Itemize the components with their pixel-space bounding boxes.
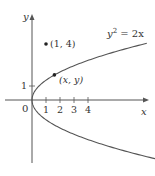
x-tick-label-1: 1 xyxy=(43,104,49,115)
equation-label: y2 = 2x xyxy=(106,27,144,39)
parabola-diagram: y x 0 1 2 3 4 1 (1, 4) (x, y) y2 = 2x xyxy=(0,0,155,176)
parabola-curve xyxy=(32,43,155,159)
x-tick-label-3: 3 xyxy=(71,104,77,115)
point-1-4 xyxy=(44,42,48,46)
point-1-4-label: (1, 4) xyxy=(50,38,76,49)
point-x-y-label: (x, y) xyxy=(59,74,83,85)
origin-label: 0 xyxy=(22,103,28,114)
x-tick-label-2: 2 xyxy=(57,104,63,115)
x-axis xyxy=(5,98,149,103)
x-axis-arrow-icon xyxy=(143,98,149,103)
y-axis xyxy=(30,14,35,163)
y-axis-arrow-icon xyxy=(30,14,35,20)
y-tick-label-1: 1 xyxy=(21,80,27,91)
x-tick-label-4: 4 xyxy=(85,104,91,115)
y-axis-label: y xyxy=(22,11,29,22)
x-axis-label: x xyxy=(141,106,147,117)
point-x-y xyxy=(53,73,57,77)
